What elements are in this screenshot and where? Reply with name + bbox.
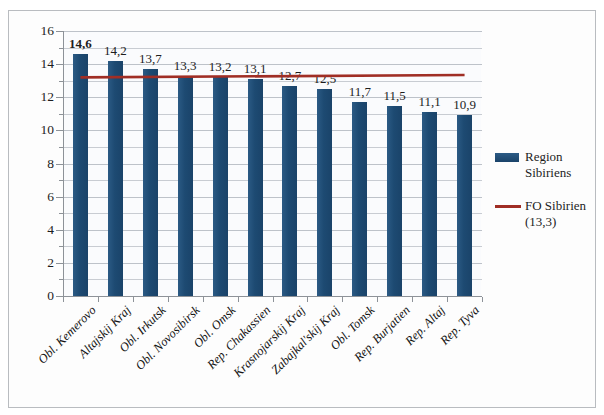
y-axis-tick-label: 6 xyxy=(10,190,54,204)
legend-label-fo-sibirien: FO Sibirien (13,3) xyxy=(525,198,595,230)
legend-line-swatch-icon xyxy=(495,205,521,208)
y-axis-tick-labels: 1614121086420 xyxy=(9,11,54,311)
legend-bar-swatch-icon xyxy=(495,153,519,162)
y-axis-tick-mark xyxy=(56,164,63,165)
reference-line-path xyxy=(80,75,464,77)
y-axis-tick-mark xyxy=(56,263,63,264)
legend-label-line1: FO Sibirien xyxy=(525,198,595,214)
y-axis-tick-mark xyxy=(56,197,63,198)
y-axis-tick-label: 10 xyxy=(10,123,54,137)
legend-label-region-sibiriens: Region Sibiriens xyxy=(525,149,595,181)
chart-legend: Region Sibiriens FO Sibirien (13,3) xyxy=(495,149,595,246)
y-axis-tick-mark xyxy=(56,230,63,231)
legend-item-region-sibiriens: Region Sibiriens xyxy=(495,149,595,181)
reference-line-fo-sibirien xyxy=(63,31,482,297)
y-axis-tick-label: 8 xyxy=(10,157,54,171)
y-axis-tick-mark xyxy=(56,64,63,65)
y-axis-tick-mark xyxy=(56,31,63,32)
legend-label-line2: Sibiriens xyxy=(525,165,595,181)
x-axis-category-labels: Obl. KemerovoAltajskij KrajObl. IrkutskO… xyxy=(9,299,597,409)
y-axis-tick-label: 4 xyxy=(10,223,54,237)
y-axis-tick-mark xyxy=(56,130,63,131)
legend-label-line1: Region xyxy=(525,149,595,165)
y-axis-tick-label: 2 xyxy=(10,256,54,270)
y-axis-tick-label: 16 xyxy=(10,24,54,38)
y-axis-tick-label: 14 xyxy=(10,57,54,71)
y-axis-tick-mark xyxy=(56,97,63,98)
chart-frame: 1614121086420 14,614,213,713,313,213,112… xyxy=(8,10,596,408)
legend-item-fo-sibirien: FO Sibirien (13,3) xyxy=(495,198,595,230)
legend-label-line2: (13,3) xyxy=(525,214,595,230)
y-axis-tick-label: 12 xyxy=(10,90,54,104)
y-axis-tick-mark xyxy=(56,296,63,297)
